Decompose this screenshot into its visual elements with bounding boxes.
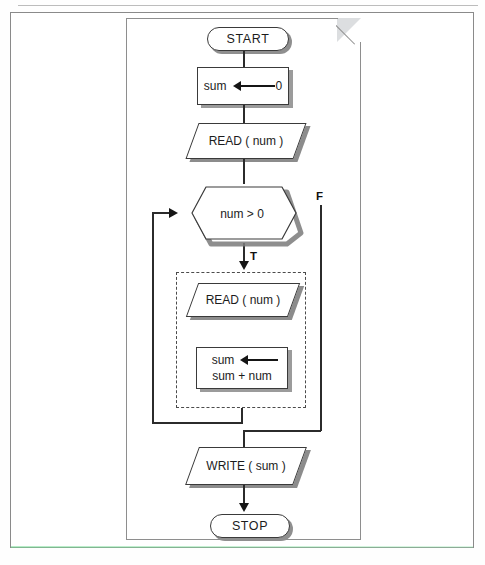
connector-start-to-init — [243, 51, 245, 67]
accumulate-expression-label: sum + num — [212, 368, 272, 384]
connector-loopback-vertical — [152, 213, 154, 423]
start-node[interactable]: START — [207, 27, 289, 51]
connector-false-to-write — [243, 430, 245, 447]
accumulate-arrow-icon — [240, 355, 278, 365]
branch-label-false: F — [316, 190, 323, 202]
accumulate-variable-label: sum — [212, 352, 235, 368]
decision-node-label: num > 0 — [172, 183, 312, 244]
read-loop-node[interactable]: READ ( num ) — [192, 283, 294, 317]
connector-loopback-horizontal — [152, 422, 242, 424]
read-loop-node-label: READ ( num ) — [192, 283, 294, 317]
page-right-border — [360, 42, 361, 540]
connector-false-horizontal — [243, 430, 321, 432]
connector-read-to-decision — [243, 159, 245, 184]
scan-bottom-tint — [11, 546, 473, 548]
accumulate-node[interactable]: sum sum + num — [196, 347, 288, 389]
connector-init-to-read — [243, 105, 245, 123]
branch-label-true: T — [250, 250, 257, 262]
scan-top-edge — [18, 5, 478, 6]
stop-node-label: STOP — [232, 519, 268, 533]
init-value-label: 0 — [275, 79, 282, 93]
arrow-write-to-stop — [239, 503, 249, 512]
init-assignment-node[interactable]: sum 0 — [197, 67, 289, 105]
init-variable-label: sum — [204, 79, 227, 93]
arrow-loopback — [169, 208, 178, 218]
arrow-decision-true — [239, 261, 249, 270]
start-node-label: START — [227, 32, 270, 46]
read-first-node-label: READ ( num ) — [192, 123, 300, 159]
write-node-label: WRITE ( sum ) — [192, 447, 300, 485]
page-top-border — [126, 18, 338, 19]
connector-false-vertical — [320, 205, 322, 431]
decision-node[interactable]: num > 0 — [172, 183, 312, 244]
read-first-node[interactable]: READ ( num ) — [192, 123, 300, 159]
stop-node[interactable]: STOP — [210, 514, 290, 538]
assignment-arrow-icon — [233, 81, 275, 91]
write-node[interactable]: WRITE ( sum ) — [192, 447, 300, 485]
folded-corner-edge — [336, 18, 370, 52]
